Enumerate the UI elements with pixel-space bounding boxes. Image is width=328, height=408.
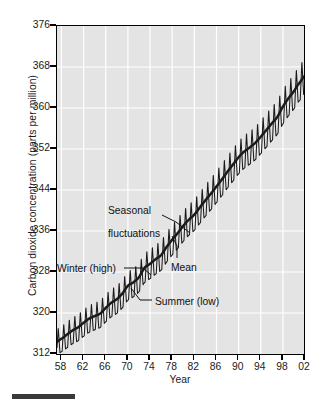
x-axis-tick-label: 02 [289, 362, 319, 372]
annotation-summer-low: Summer (low) [155, 296, 219, 308]
x-axis-tick-labels: 586266707478828690949802 [0, 0, 328, 408]
annotation-seasonal-fluctuations: Seasonal fluctuations [108, 193, 160, 251]
x-axis-title: Year [56, 374, 304, 385]
annotation-seasonal-line2: fluctuations [108, 228, 160, 240]
annotation-seasonal-line1: Seasonal [108, 205, 160, 217]
annotation-mean: Mean [171, 262, 197, 274]
bottom-rule [12, 394, 75, 399]
annotation-winter-high: Winter (high) [57, 263, 116, 275]
co2-chart-figure: Carbon dioxide concentration (parts per … [0, 0, 328, 408]
